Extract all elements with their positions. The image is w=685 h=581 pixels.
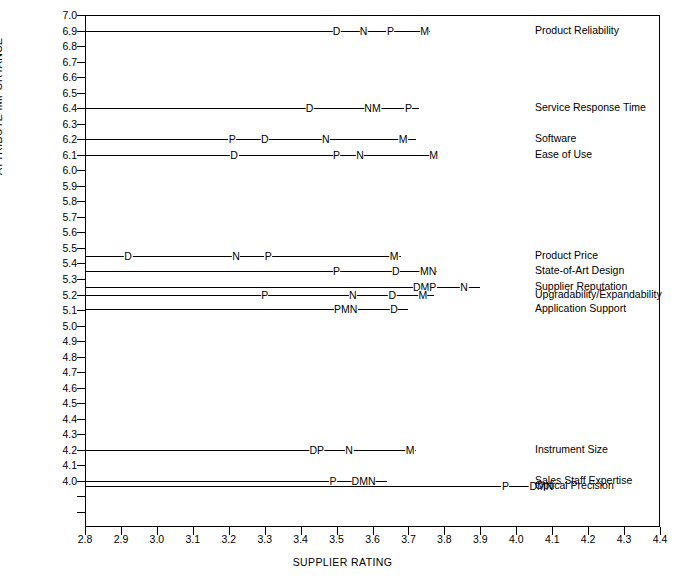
y-tick-label: 5.4: [31, 258, 77, 268]
data-point-marker: P: [333, 266, 341, 276]
data-point-marker: NM: [364, 103, 381, 113]
y-tick-label: 4.9: [31, 336, 77, 346]
y-tick-label: 6.8: [31, 41, 77, 51]
y-tick-mark: [77, 124, 85, 125]
y-tick-mark: [77, 357, 85, 358]
data-point-marker: N: [359, 26, 367, 36]
y-tick-mark: [77, 434, 85, 435]
y-tick-mark: [77, 279, 85, 280]
x-tick-mark: [229, 527, 230, 535]
y-tick-mark: [77, 31, 85, 32]
y-tick-label: 5.8: [31, 196, 77, 206]
attribute-row-label: Optical Precision: [535, 480, 614, 491]
x-tick-mark: [121, 527, 122, 535]
y-tick-mark: [77, 186, 85, 187]
x-axis-title: SUPPLIER RATING: [0, 556, 685, 568]
data-point-marker: M: [389, 251, 399, 261]
y-tick-label: 4.7: [31, 367, 77, 377]
y-tick-mark: [77, 512, 85, 513]
y-tick-mark: [77, 232, 85, 233]
y-tick-label: 6.7: [31, 57, 77, 67]
y-tick-mark: [77, 217, 85, 218]
y-tick-label: 4.2: [31, 445, 77, 455]
y-tick-label: 4.3: [31, 429, 77, 439]
y-tick-mark: [77, 295, 85, 296]
x-tick-mark: [444, 527, 445, 535]
y-tick-mark: [77, 341, 85, 342]
data-point-marker: N: [356, 150, 364, 160]
y-tick-label: 7.0: [31, 10, 77, 20]
y-tick-mark: [77, 170, 85, 171]
attribute-row-label: Upgradability/Expandability: [535, 289, 662, 300]
y-tick-mark: [77, 496, 85, 497]
y-tick-mark: [77, 263, 85, 264]
y-tick-mark: [77, 465, 85, 466]
y-tick-mark: [77, 481, 85, 482]
y-tick-label: 5.7: [31, 212, 77, 222]
data-point-marker: N: [345, 445, 353, 455]
y-tick-mark: [77, 15, 85, 16]
y-tick-label: 5.6: [31, 227, 77, 237]
data-point-marker: M: [429, 150, 439, 160]
y-tick-label: 4.4: [31, 414, 77, 424]
y-tick-mark: [77, 77, 85, 78]
series-line: [85, 271, 437, 272]
series-line: [85, 31, 430, 32]
x-tick-mark: [373, 527, 374, 535]
attribute-row-label: Instrument Size: [535, 444, 608, 455]
y-tick-label: 4.5: [31, 398, 77, 408]
x-tick-mark: [588, 527, 589, 535]
data-point-marker: D: [230, 150, 238, 160]
y-tick-label: 5.1: [31, 305, 77, 315]
series-line: [85, 155, 437, 156]
attribute-row-label: State-of-Art Design: [535, 265, 624, 276]
series-line: [85, 481, 387, 482]
x-tick-mark: [624, 527, 625, 535]
x-tick-mark: [301, 527, 302, 535]
y-tick-label: 4.0: [31, 476, 77, 486]
y-tick-mark: [77, 62, 85, 63]
series-line: [85, 309, 408, 310]
data-point-marker: M: [405, 445, 415, 455]
data-point-marker: N: [322, 134, 330, 144]
attribute-row-label: Product Price: [535, 250, 598, 261]
attribute-row-label: Application Support: [535, 303, 626, 314]
y-tick-label: 5.3: [31, 274, 77, 284]
data-point-marker: DP: [309, 445, 324, 455]
series-line: [85, 256, 401, 257]
y-tick-label: 5.5: [31, 243, 77, 253]
y-tick-mark: [77, 108, 85, 109]
data-point-marker: N: [232, 251, 240, 261]
data-point-marker: P: [333, 150, 341, 160]
x-tick-mark: [408, 527, 409, 535]
x-tick-mark: [85, 527, 86, 535]
x-tick-mark: [157, 527, 158, 535]
y-tick-mark: [77, 419, 85, 420]
x-tick-mark: [660, 527, 661, 535]
y-tick-mark: [77, 326, 85, 327]
data-point-marker: P: [405, 103, 413, 113]
y-tick-label: 6.5: [31, 88, 77, 98]
x-tick-mark: [516, 527, 517, 535]
attribute-row-label: Ease of Use: [535, 149, 592, 160]
data-point-marker: MN: [420, 266, 437, 276]
data-point-marker: P: [261, 290, 269, 300]
data-point-marker: P: [228, 134, 236, 144]
y-tick-mark: [77, 388, 85, 389]
y-tick-label: 6.2: [31, 134, 77, 144]
x-tick-mark: [265, 527, 266, 535]
data-point-marker: M: [398, 134, 408, 144]
data-point-marker: N: [460, 282, 468, 292]
data-point-marker: D: [388, 290, 396, 300]
y-tick-mark: [77, 93, 85, 94]
data-point-marker: D: [261, 134, 269, 144]
data-point-marker: D: [332, 26, 340, 36]
x-tick-mark: [480, 527, 481, 535]
y-tick-mark: [77, 372, 85, 373]
data-point-marker: D: [390, 304, 398, 314]
y-tick-label: 4.6: [31, 383, 77, 393]
data-point-marker: M: [420, 26, 430, 36]
y-axis-title: ATTRIBUTE IMPORTANCE: [0, 0, 4, 175]
y-tick-label: 5.9: [31, 181, 77, 191]
y-tick-label: 4.8: [31, 352, 77, 362]
